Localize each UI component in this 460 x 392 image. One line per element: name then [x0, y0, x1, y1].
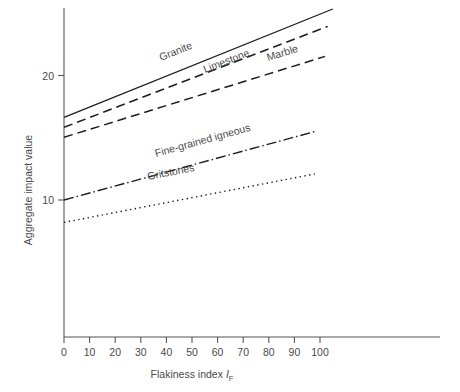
- x-tick-label-0: 0: [61, 346, 67, 358]
- series-group: [64, 9, 333, 222]
- series-line-limestone: [64, 26, 328, 127]
- x-tick-label-70: 70: [237, 346, 249, 358]
- svg-text:Flakiness index IF: Flakiness index IF: [151, 368, 234, 383]
- x-tick-label-50: 50: [186, 346, 198, 358]
- x-tick-label-60: 60: [212, 346, 224, 358]
- series-line-gritstones: [64, 174, 315, 223]
- axis-group: [64, 8, 440, 337]
- series-label-marble: Marble: [265, 42, 299, 63]
- series-label-limestone: Limestone: [201, 46, 251, 75]
- x-axis-title-text: Flakiness index: [151, 368, 226, 380]
- x-tick-group: 0 10 20 30 40 50 60 70 80 90 100: [61, 337, 329, 358]
- y-tick-label-10: 10: [42, 194, 54, 206]
- x-tick-label-80: 80: [263, 346, 275, 358]
- x-tick-label-10: 10: [84, 346, 96, 358]
- series-label-granite: Granite: [157, 39, 194, 63]
- series-line-marble: [64, 56, 325, 137]
- x-tick-label-40: 40: [161, 346, 173, 358]
- chart-figure: 20 10 0 10 20 30 40 50 60 70 80: [0, 0, 460, 392]
- x-tick-label-30: 30: [135, 346, 147, 358]
- x-tick-label-20: 20: [109, 346, 121, 358]
- series-label-group: Granite Limestone Marble Fine-grained ig…: [146, 39, 299, 182]
- aggregate-impact-vs-flakiness-chart: 20 10 0 10 20 30 40 50 60 70 80: [0, 0, 460, 392]
- x-axis-title-subscript: F: [229, 374, 234, 383]
- series-line-granite: [64, 9, 333, 117]
- x-tick-label-100: 100: [311, 346, 329, 358]
- x-tick-label-90: 90: [289, 346, 301, 358]
- y-tick-label-20: 20: [42, 70, 54, 82]
- series-label-gritstones: Gritstones: [146, 161, 195, 182]
- y-axis-title: Aggregate impact value: [22, 135, 34, 245]
- x-axis-title: Flakiness index IF: [151, 368, 234, 383]
- y-tick-group: 20 10: [42, 70, 64, 207]
